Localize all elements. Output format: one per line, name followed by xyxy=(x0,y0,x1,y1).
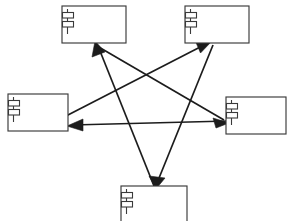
arrowhead-icon xyxy=(67,119,83,131)
connector-line[interactable] xyxy=(98,46,154,186)
component-top-left[interactable] xyxy=(62,6,126,43)
connector-topright-to-bottom[interactable] xyxy=(149,45,213,189)
connector-line[interactable] xyxy=(97,46,224,120)
component-diagram xyxy=(0,0,287,221)
connector-left-to-topright[interactable] xyxy=(66,41,212,116)
connector-right-to-left[interactable] xyxy=(67,119,228,131)
connector-line[interactable] xyxy=(72,121,228,125)
component-top-right[interactable] xyxy=(185,6,249,43)
component-bottom[interactable] xyxy=(121,186,187,221)
connector-line[interactable] xyxy=(66,43,208,116)
diagram-canvas xyxy=(0,0,287,221)
connector-topleft-to-right[interactable] xyxy=(97,46,229,128)
connector-bottom-to-topleft[interactable] xyxy=(92,41,154,186)
connector-layer xyxy=(66,41,229,189)
component-left[interactable] xyxy=(8,94,68,131)
component-layer xyxy=(8,6,286,221)
component-right[interactable] xyxy=(226,97,286,134)
